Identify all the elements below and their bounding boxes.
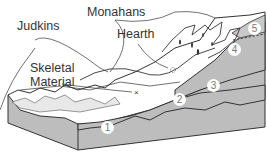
label-material: Material <box>30 76 74 89</box>
skeletal-material-marker-icon: × <box>134 88 139 97</box>
layer-4-label: 4 <box>228 43 241 56</box>
layer-2-label: 2 <box>173 93 186 106</box>
layer-1-label: 1 <box>101 121 114 134</box>
label-hearth: Hearth <box>117 28 155 41</box>
label-judkins: Judkins <box>17 20 59 33</box>
layer-5-label: 5 <box>248 22 261 35</box>
label-monahans: Monahans <box>87 6 145 19</box>
layer-3-label: 3 <box>207 79 220 92</box>
label-skeletal: Skeletal <box>30 62 74 75</box>
